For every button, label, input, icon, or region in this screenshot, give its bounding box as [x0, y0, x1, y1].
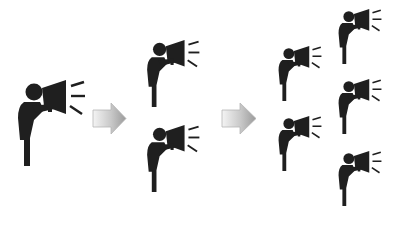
megaphone-speaker-icon — [147, 40, 199, 107]
diagram-canvas — [0, 0, 395, 226]
megaphone-speaker-icon — [279, 116, 322, 171]
speaker-stage3-left-bottom — [279, 116, 322, 171]
diagram-svg — [0, 0, 395, 226]
speaker-stage2-bottom — [147, 125, 199, 192]
speaker-stage3-right-middle — [339, 79, 382, 134]
right-arrow-icon — [93, 103, 126, 134]
megaphone-speaker-icon — [339, 151, 382, 206]
megaphone-speaker-icon — [18, 80, 85, 166]
speaker-stage3-right-bottom — [339, 151, 382, 206]
speaker-stage1 — [18, 80, 85, 166]
right-arrow-icon — [222, 103, 256, 134]
speaker-stage3-left-top — [279, 46, 322, 101]
speaker-stage3-right-top — [339, 9, 382, 64]
megaphone-speaker-icon — [279, 46, 322, 101]
speaker-stage2-top — [147, 40, 199, 107]
megaphone-speaker-icon — [339, 9, 382, 64]
megaphone-speaker-icon — [147, 125, 199, 192]
megaphone-speaker-icon — [339, 79, 382, 134]
